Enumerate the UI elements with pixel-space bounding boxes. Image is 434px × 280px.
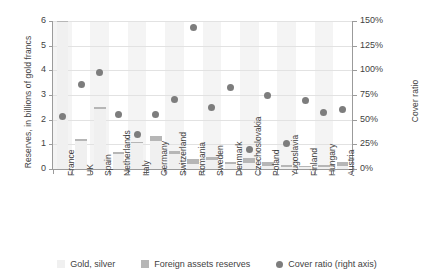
gold-silver-swatch-icon xyxy=(57,260,65,268)
y-axis-right-tick xyxy=(353,21,357,22)
x-axis-label-italy: Italy xyxy=(141,160,151,176)
y-axis-right-tick xyxy=(353,144,357,145)
y-axis-right-tick-label: 150% xyxy=(360,15,402,25)
y-axis-left-tick xyxy=(49,95,53,96)
y-axis-left-tick xyxy=(49,120,53,121)
x-axis-label-austria: Austria xyxy=(346,150,356,176)
x-axis-label-germany: Germany xyxy=(159,141,169,176)
cover-ratio-point xyxy=(246,146,253,153)
y-axis-left-tick-label: 1 xyxy=(6,138,46,148)
legend-item-gold-silver: Gold, silver xyxy=(57,259,115,269)
y-axis-left-tick xyxy=(49,21,53,22)
y-axis-right-title: Cover ratio xyxy=(410,41,420,161)
x-axis-label-uk: UK xyxy=(85,164,95,176)
bar-foreign-assets xyxy=(131,142,143,144)
y-axis-left-tick-label: 2 xyxy=(6,114,46,124)
cover-ratio-point xyxy=(134,131,141,138)
gridline xyxy=(53,46,352,47)
x-axis-label-yugoslavia: Yugoslavia xyxy=(290,135,300,176)
y-axis-right-tick-label: 0% xyxy=(360,163,402,173)
chart-legend: Gold, silver Foreign assets reserves Cov… xyxy=(0,254,434,274)
x-axis-label-finland: Finland xyxy=(309,148,319,176)
cover-ratio-point xyxy=(96,69,103,76)
y-axis-left-tick xyxy=(49,144,53,145)
y-axis-right-tick xyxy=(353,95,357,96)
x-axis-label-czechoslovakia: Czechoslovakia xyxy=(253,116,263,176)
y-axis-left-tick xyxy=(49,70,53,71)
y-axis-right-tick-label: 100% xyxy=(360,64,402,74)
x-axis-label-romania: Romania xyxy=(197,142,207,176)
x-axis-label-netherlands: Netherlands xyxy=(122,130,132,176)
bar-foreign-assets xyxy=(57,21,69,23)
x-axis-tick xyxy=(53,170,54,174)
y-axis-right-tick-label: 50% xyxy=(360,114,402,124)
bar-foreign-assets xyxy=(75,139,87,141)
x-axis-label-sweden: Sweden xyxy=(215,145,225,176)
x-axis-label-poland: Poland xyxy=(271,150,281,176)
y-axis-right-tick xyxy=(353,46,357,47)
y-axis-left-tick-label: 0 xyxy=(6,163,46,173)
gridline xyxy=(53,21,352,22)
y-axis-left-tick xyxy=(49,46,53,47)
legend-item-foreign-assets: Foreign assets reserves xyxy=(141,259,250,269)
cover-ratio-point xyxy=(59,113,66,120)
y-axis-left-tick-label: 6 xyxy=(6,15,46,25)
y-axis-right-tick-label: 125% xyxy=(360,40,402,50)
legend-label-gold-silver: Gold, silver xyxy=(70,259,115,269)
legend-label-foreign-assets: Foreign assets reserves xyxy=(154,259,250,269)
x-axis-label-hungary: Hungary xyxy=(327,144,337,176)
bar-foreign-assets xyxy=(150,136,162,141)
cover-ratio-marker-icon xyxy=(276,261,283,268)
x-axis-label-spain: Spain xyxy=(103,154,113,176)
y-axis-right-tick-label: 25% xyxy=(360,138,402,148)
y-axis-right-tick xyxy=(353,120,357,121)
reserves-cover-ratio-chart: Reserves, in billions of gold francs Cov… xyxy=(0,0,434,280)
bar-gold-silver xyxy=(57,22,69,169)
y-axis-right-tick-label: 75% xyxy=(360,89,402,99)
bar-foreign-assets xyxy=(94,107,106,109)
x-axis-label-switzerland: Switzerland xyxy=(178,132,188,176)
y-axis-left-tick-label: 3 xyxy=(6,89,46,99)
foreign-assets-swatch-icon xyxy=(141,260,149,268)
x-axis-label-france: France xyxy=(66,150,76,176)
y-axis-right-tick xyxy=(353,70,357,71)
gridline xyxy=(53,95,352,96)
legend-item-cover-ratio: Cover ratio (right axis) xyxy=(276,259,377,269)
y-axis-left-tick-label: 5 xyxy=(6,40,46,50)
cover-ratio-point xyxy=(78,81,85,88)
x-axis-label-denmark: Denmark xyxy=(234,142,244,176)
legend-label-cover-ratio: Cover ratio (right axis) xyxy=(288,259,377,269)
y-axis-left-tick-label: 4 xyxy=(6,64,46,74)
cover-ratio-point xyxy=(227,84,234,91)
